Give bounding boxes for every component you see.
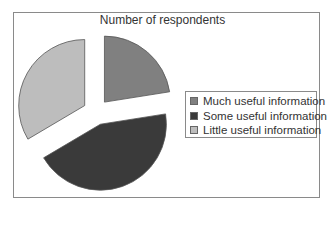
legend-item-some: Some useful information <box>190 109 316 124</box>
legend-label-some: Some useful information <box>203 110 327 122</box>
legend-label-little: Little useful information <box>203 124 321 136</box>
legend-item-much: Much useful information <box>190 94 316 109</box>
legend-label-much: Much useful information <box>203 95 325 107</box>
legend-swatch-some <box>190 112 198 120</box>
legend: Much useful information Some useful info… <box>185 91 317 138</box>
legend-item-little: Little useful information <box>190 123 316 138</box>
pie-slice-some <box>44 114 167 190</box>
pie-slice-much <box>104 36 169 102</box>
legend-swatch-little <box>190 126 198 134</box>
pie-slice-little <box>19 40 85 140</box>
legend-swatch-much <box>190 97 198 105</box>
